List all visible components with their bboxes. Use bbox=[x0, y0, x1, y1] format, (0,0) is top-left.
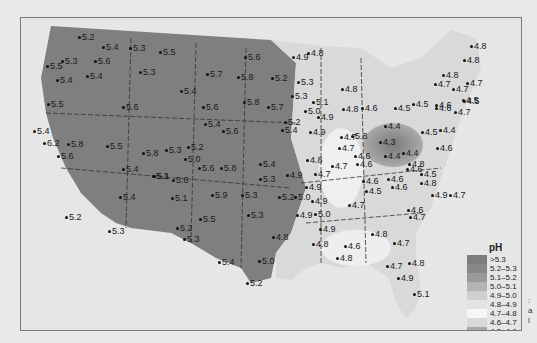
station-ph-value: 4.8 bbox=[310, 155, 323, 165]
station-dot-icon bbox=[67, 143, 70, 146]
station-marker: 5.9 bbox=[211, 191, 228, 200]
station-marker: 5.3 bbox=[129, 44, 146, 53]
station-marker: 4.7 bbox=[409, 213, 426, 222]
station-marker: 5.1 bbox=[413, 290, 430, 299]
station-dot-icon bbox=[402, 152, 405, 155]
station-ph-value: 4.9 bbox=[300, 210, 313, 220]
station-ph-value: 4.8 bbox=[375, 229, 388, 239]
station-dot-icon bbox=[387, 178, 390, 181]
station-dot-icon bbox=[218, 261, 221, 264]
legend-label: 4.7–4.8 bbox=[490, 309, 517, 318]
station-marker: 5.2 bbox=[246, 279, 263, 288]
station-ph-value: 4.6 bbox=[365, 103, 378, 113]
station-marker: 4.6 bbox=[356, 160, 373, 169]
station-dot-icon bbox=[304, 110, 307, 113]
station-dot-icon bbox=[342, 108, 345, 111]
station-dot-icon bbox=[412, 103, 415, 106]
station-marker: 5.4 bbox=[119, 193, 136, 202]
station-ph-value: 4.8 bbox=[424, 178, 437, 188]
station-ph-value: 4.9 bbox=[323, 224, 336, 234]
station-dot-icon bbox=[361, 107, 364, 110]
station-ph-value: 5.3 bbox=[245, 190, 258, 200]
station-ph-value: 4.7 bbox=[458, 107, 471, 117]
station-marker: 5.6 bbox=[94, 57, 111, 66]
station-dot-icon bbox=[176, 227, 179, 230]
legend-label: 4.5–4.6 bbox=[490, 327, 517, 331]
station-ph-value: 4.8 bbox=[412, 258, 425, 268]
station-marker: 5.3 bbox=[247, 211, 264, 220]
legend-item: 4.8–4.9 bbox=[467, 300, 522, 309]
station-ph-value: 5.3 bbox=[112, 226, 125, 236]
station-ph-value: 5.1 bbox=[157, 171, 170, 181]
station-ph-value: 4.6 bbox=[395, 182, 408, 192]
station-dot-icon bbox=[241, 194, 244, 197]
map-frame: 5.25.45.35.55.55.35.65.35.45.45.55.65.46… bbox=[20, 17, 522, 331]
station-marker: 4.5 bbox=[412, 100, 429, 109]
station-marker: 5.6 bbox=[122, 103, 139, 112]
station-ph-value: 5.3 bbox=[301, 77, 314, 87]
station-dot-icon bbox=[356, 163, 359, 166]
station-ph-value: 4.4 bbox=[443, 125, 456, 135]
station-dot-icon bbox=[309, 131, 312, 134]
station-dot-icon bbox=[336, 257, 339, 260]
station-marker: 5.4 bbox=[33, 127, 50, 136]
station-dot-icon bbox=[222, 130, 225, 133]
station-marker: 4.5 bbox=[365, 187, 382, 196]
station-dot-icon bbox=[244, 56, 247, 59]
station-dot-icon bbox=[354, 155, 357, 158]
legend-swatch bbox=[467, 255, 487, 264]
station-marker: 5.2 bbox=[284, 118, 301, 127]
station-marker: 4.7 bbox=[454, 108, 471, 117]
station-dot-icon bbox=[202, 106, 205, 109]
station-ph-value: 5.4 bbox=[208, 119, 221, 129]
station-dot-icon bbox=[259, 178, 262, 181]
legend-swatch bbox=[467, 327, 487, 331]
station-dot-icon bbox=[331, 165, 334, 168]
station-marker: 4.8 bbox=[442, 71, 459, 80]
station-marker: 4.7 bbox=[449, 191, 466, 200]
station-dot-icon bbox=[408, 262, 411, 265]
station-marker: 5.2 bbox=[176, 224, 193, 233]
station-dot-icon bbox=[348, 204, 351, 207]
station-dot-icon bbox=[183, 238, 186, 241]
station-marker: 4.9 bbox=[311, 197, 328, 206]
station-ph-value: 4.8 bbox=[412, 159, 425, 169]
station-ph-value: 4.8 bbox=[346, 104, 359, 114]
station-marker: 4.6 bbox=[344, 242, 361, 251]
station-marker: 5.5 bbox=[199, 215, 216, 224]
station-dot-icon bbox=[413, 293, 416, 296]
station-ph-value: 5.0 bbox=[188, 154, 201, 164]
station-dot-icon bbox=[86, 75, 89, 78]
station-dot-icon bbox=[47, 103, 50, 106]
station-dot-icon bbox=[391, 186, 394, 189]
station-dot-icon bbox=[33, 130, 36, 133]
station-ph-value: 6.2 bbox=[47, 138, 60, 148]
station-ph-value: 5.5 bbox=[110, 141, 123, 151]
station-ph-value: 4.6 bbox=[348, 241, 361, 251]
legend-swatch bbox=[467, 300, 487, 309]
station-marker: 5.6 bbox=[222, 127, 239, 136]
station-dot-icon bbox=[314, 173, 317, 176]
legend-swatch bbox=[467, 318, 487, 327]
station-marker: 4.8 bbox=[420, 179, 437, 188]
station-ph-value: 5.2 bbox=[191, 142, 204, 152]
station-ph-value: 5.3 bbox=[251, 210, 264, 220]
station-marker: 5.6 bbox=[57, 152, 74, 161]
station-dot-icon bbox=[46, 65, 49, 68]
station-ph-value: 5.8 bbox=[146, 148, 159, 158]
station-marker: 5.6 bbox=[244, 53, 261, 62]
station-ph-value: 4.7 bbox=[335, 161, 348, 171]
station-ph-value: 4.7 bbox=[453, 190, 466, 200]
station-dot-icon bbox=[420, 173, 423, 176]
station-dot-icon bbox=[409, 216, 412, 219]
station-marker: 4.7 bbox=[348, 201, 365, 210]
station-ph-value: 4.3 bbox=[383, 137, 396, 147]
station-ph-value: 5.2 bbox=[275, 73, 288, 83]
station-dot-icon bbox=[297, 81, 300, 84]
station-dot-icon bbox=[259, 163, 262, 166]
station-ph-value: 5.6 bbox=[98, 56, 111, 66]
station-ph-value: 5.8 bbox=[71, 139, 84, 149]
station-marker: 5.8 bbox=[243, 98, 260, 107]
station-marker: 5.3 bbox=[139, 68, 156, 77]
station-marker: 5.8 bbox=[142, 149, 159, 158]
